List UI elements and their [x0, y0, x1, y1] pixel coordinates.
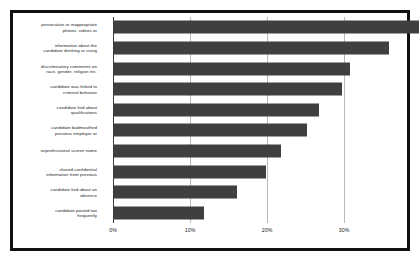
category-label: shared confidentialinformation from prev…: [9, 166, 97, 177]
category-label: candidate lied aboutqualifications: [9, 104, 97, 115]
category-label: candidate badmouthedprevious employer or: [9, 125, 97, 136]
bar: [114, 21, 419, 34]
category-label-line: criminal behavior: [9, 89, 97, 94]
category-label-line: previous employer or: [9, 130, 97, 135]
category-label: information about thecandidate drinking …: [9, 42, 97, 53]
category-axis-labels: provocative or inappropriatephotos, vide…: [13, 17, 101, 223]
bar: [114, 144, 281, 157]
category-label-line: photos, videos or: [9, 27, 97, 32]
plot-area: [103, 17, 408, 223]
category-label-line: unprofessional screen name: [9, 148, 97, 153]
category-label: unprofessional screen name: [9, 148, 97, 153]
category-label: provocative or inappropriatephotos, vide…: [9, 22, 97, 33]
category-label: candidate was linked tocriminal behavior: [9, 84, 97, 95]
category-label-line: frequently: [9, 213, 97, 218]
category-label-line: race, gender, religion etc.: [9, 69, 97, 74]
value-axis-ticks: 0%10%20%30%: [103, 227, 408, 241]
value-tick-label: 30%: [339, 227, 350, 233]
bar: [114, 186, 237, 199]
value-tick-label: 0%: [109, 227, 117, 233]
bar: [114, 62, 350, 75]
bar: [114, 206, 204, 219]
chart-frame: provocative or inappropriatephotos, vide…: [10, 10, 410, 251]
bar: [114, 41, 389, 54]
category-label-line: qualifications: [9, 110, 97, 115]
bar: [114, 165, 266, 178]
category-label: candidate lied about anabsence: [9, 187, 97, 198]
value-tick-label: 10%: [185, 227, 196, 233]
category-label: discriminatory comments onrace, gender, …: [9, 63, 97, 74]
category-label-line: information from previous: [9, 172, 97, 177]
chart-inner: provocative or inappropriatephotos, vide…: [13, 13, 407, 248]
value-tick-label: 20%: [262, 227, 273, 233]
category-label: candidate posted toofrequently: [9, 207, 97, 218]
category-label-line: candidate drinking or using: [9, 48, 97, 53]
bar: [114, 83, 342, 96]
category-label-line: absence: [9, 192, 97, 197]
bar: [114, 124, 307, 137]
bar: [114, 103, 319, 116]
